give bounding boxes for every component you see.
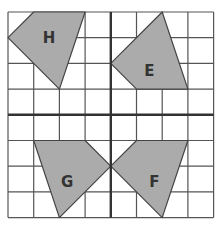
shape-label-h: H [43, 29, 56, 47]
shape-label-e: E [144, 62, 154, 80]
shape-label-f: F [149, 173, 159, 191]
shape-label-g: G [61, 173, 73, 191]
grid-diagram: HEGF [0, 0, 218, 230]
shape-h [8, 12, 85, 89]
